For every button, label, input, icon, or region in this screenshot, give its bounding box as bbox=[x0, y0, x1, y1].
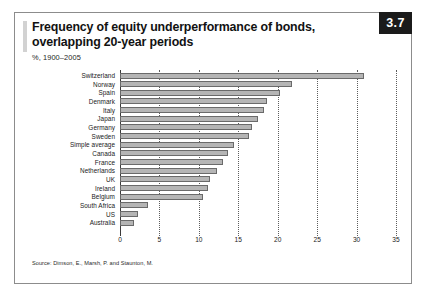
value-tick-label: 35 bbox=[392, 236, 399, 243]
category-label: France bbox=[95, 159, 115, 166]
category-label: Switzerland bbox=[81, 72, 115, 79]
category-label: Netherlands bbox=[80, 167, 115, 174]
bar bbox=[120, 185, 208, 191]
category-label: Japan bbox=[97, 115, 115, 122]
bar bbox=[120, 133, 249, 139]
bar bbox=[120, 142, 234, 148]
bar bbox=[120, 150, 228, 156]
category-label: Ireland bbox=[95, 185, 115, 192]
category-axis-labels: SwitzerlandNorwaySpainDenmarkItalyJapanG… bbox=[32, 70, 118, 230]
category-label: UK bbox=[106, 176, 115, 183]
value-tick-label: 0 bbox=[118, 236, 122, 243]
category-label: Sweden bbox=[92, 133, 115, 140]
bar bbox=[120, 73, 364, 79]
bar bbox=[120, 220, 134, 226]
source-note: Source: Dimson, E., Marsh, P. and Staunt… bbox=[32, 260, 153, 266]
category-label: Germany bbox=[88, 124, 115, 131]
bar bbox=[120, 168, 217, 174]
category-label: Denmark bbox=[89, 98, 115, 105]
figure-number-badge: 3.7 bbox=[379, 12, 412, 34]
category-label: Simple average bbox=[70, 141, 115, 148]
bar bbox=[120, 202, 148, 208]
gridline bbox=[396, 70, 397, 236]
category-label: Italy bbox=[103, 107, 115, 114]
bar bbox=[120, 194, 203, 200]
value-tick-label: 5 bbox=[158, 236, 162, 243]
category-label: Belgium bbox=[92, 193, 115, 200]
value-tick-label: 15 bbox=[235, 236, 242, 243]
bar bbox=[120, 124, 252, 130]
gridline bbox=[357, 70, 358, 236]
chart-title: Frequency of equity underperformance of … bbox=[32, 20, 350, 49]
gridline bbox=[317, 70, 318, 236]
bar bbox=[120, 107, 264, 113]
bar bbox=[120, 81, 292, 87]
title-accent-bar bbox=[23, 21, 27, 52]
plot-area: SwitzerlandNorwaySpainDenmarkItalyJapanG… bbox=[32, 70, 396, 248]
bar bbox=[120, 176, 210, 182]
category-label: South Africa bbox=[80, 202, 115, 209]
value-tick-label: 10 bbox=[195, 236, 202, 243]
category-label: Canada bbox=[92, 150, 115, 157]
category-label: Australia bbox=[90, 219, 115, 226]
bar bbox=[120, 116, 258, 122]
bar bbox=[120, 159, 223, 165]
bar bbox=[120, 98, 267, 104]
value-tick-label: 30 bbox=[353, 236, 360, 243]
category-label: Spain bbox=[98, 89, 115, 96]
value-tick-label: 20 bbox=[274, 236, 281, 243]
value-tick-label: 25 bbox=[313, 236, 320, 243]
value-axis-ticks: 05101520253035 bbox=[120, 236, 396, 248]
bar bbox=[120, 90, 280, 96]
bar bbox=[120, 211, 138, 217]
category-label: US bbox=[106, 211, 115, 218]
chart-subtitle: %, 1900–2005 bbox=[32, 53, 81, 62]
bar-canvas bbox=[120, 70, 396, 230]
category-label: Norway bbox=[93, 81, 115, 88]
figure-panel: 3.7 Frequency of equity underperformance… bbox=[14, 12, 412, 284]
